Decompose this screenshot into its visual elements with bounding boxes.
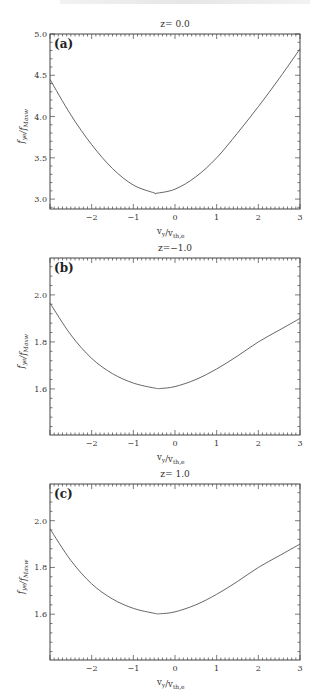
x-tick-label: −1 xyxy=(127,439,139,448)
x-tick-label: −1 xyxy=(127,664,139,673)
x-tick-label: 1 xyxy=(214,439,219,448)
panel-label: (c) xyxy=(54,487,73,501)
x-tick-label: 0 xyxy=(172,213,177,222)
y-axis-label: fye/fMaxw xyxy=(16,559,29,595)
distribution-curve xyxy=(50,49,300,194)
x-tick-label: 3 xyxy=(297,439,302,448)
y-tick-label: 3.5 xyxy=(34,154,47,163)
y-axis-ticks xyxy=(50,267,300,427)
x-axis-ticks xyxy=(50,484,300,660)
panel-title: z=−1.0 xyxy=(158,243,192,253)
plot-frame xyxy=(50,258,300,435)
chart-panel-a: −2−101233.03.54.04.55.0z= 0.0(a)vy/vth,e… xyxy=(16,19,303,239)
panel-label: (b) xyxy=(54,261,74,275)
x-axis-label: vy/vth,e xyxy=(156,452,185,465)
x-tick-label: 2 xyxy=(256,213,261,222)
y-tick-label: 1.8 xyxy=(34,563,47,572)
y-tick-label: 1.6 xyxy=(34,385,47,394)
x-tick-label: 2 xyxy=(256,439,261,448)
x-tick-label: 0 xyxy=(172,439,177,448)
y-axis-ticks xyxy=(50,34,300,207)
figure: −2−101233.03.54.04.55.0z= 0.0(a)vy/vth,e… xyxy=(0,0,318,699)
x-tick-label: 3 xyxy=(297,664,302,673)
distribution-curve xyxy=(50,303,300,389)
y-tick-label: 4.0 xyxy=(34,113,47,122)
x-tick-label: −2 xyxy=(86,213,98,222)
y-axis-label: fye/fMaxw xyxy=(16,333,29,369)
x-tick-label: −1 xyxy=(127,213,139,222)
chart-panel-b: −2−101231.61.82.0z=−1.0(b)vy/vth,efye/fM… xyxy=(16,243,303,465)
y-axis-label: fye/fMaxw xyxy=(16,108,29,144)
x-axis-ticks xyxy=(50,34,300,209)
x-tick-label: 0 xyxy=(172,664,177,673)
y-tick-label: 2.0 xyxy=(34,517,47,526)
y-tick-label: 2.0 xyxy=(34,291,47,300)
x-tick-label: 1 xyxy=(214,213,219,222)
x-tick-label: −2 xyxy=(86,439,98,448)
plot-frame xyxy=(50,484,300,660)
panel-title: z= 1.0 xyxy=(160,469,190,479)
y-tick-label: 1.8 xyxy=(34,338,47,347)
panel-label: (a) xyxy=(54,37,73,51)
x-tick-label: 1 xyxy=(214,664,219,673)
x-axis-label: vy/vth,e xyxy=(156,677,185,690)
panel-title: z= 0.0 xyxy=(160,19,190,29)
distribution-curve xyxy=(50,529,300,614)
x-axis-ticks xyxy=(50,258,300,435)
x-axis-label: vy/vth,e xyxy=(156,226,185,239)
y-tick-label: 3.0 xyxy=(34,195,47,204)
plot-frame xyxy=(50,34,300,209)
x-tick-label: −2 xyxy=(86,664,98,673)
chart-panel-c: −2−101231.61.82.0z= 1.0(c)vy/vth,efye/fM… xyxy=(16,469,303,690)
y-tick-label: 1.6 xyxy=(34,610,47,619)
y-tick-label: 5.0 xyxy=(34,30,47,39)
y-tick-label: 4.5 xyxy=(34,71,47,80)
y-axis-ticks xyxy=(50,493,300,652)
x-tick-label: 2 xyxy=(256,664,261,673)
x-tick-label: 3 xyxy=(297,213,302,222)
